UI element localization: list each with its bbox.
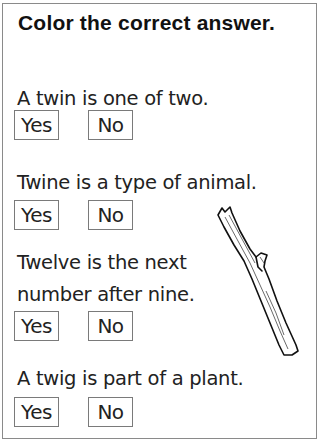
question-2-text: Twine is a type of animal.	[17, 167, 257, 198]
question-2-yes-button[interactable]: Yes	[14, 200, 59, 230]
question-1-no-button[interactable]: No	[88, 110, 133, 140]
twig-icon	[212, 205, 304, 360]
question-1-yes-button[interactable]: Yes	[14, 110, 59, 140]
question-3-text-line-1: Twelve is the next	[17, 247, 187, 278]
question-4-yes-button[interactable]: Yes	[14, 397, 59, 427]
question-2-no-button[interactable]: No	[88, 200, 133, 230]
question-3-yes-button[interactable]: Yes	[14, 311, 59, 341]
question-3-no-button[interactable]: No	[88, 311, 133, 341]
question-3-text-line-2: number after nine.	[17, 279, 195, 310]
question-4-no-button[interactable]: No	[88, 397, 133, 427]
question-4-text: A twig is part of a plant.	[17, 363, 243, 394]
worksheet-title: Color the correct answer.	[18, 10, 278, 36]
